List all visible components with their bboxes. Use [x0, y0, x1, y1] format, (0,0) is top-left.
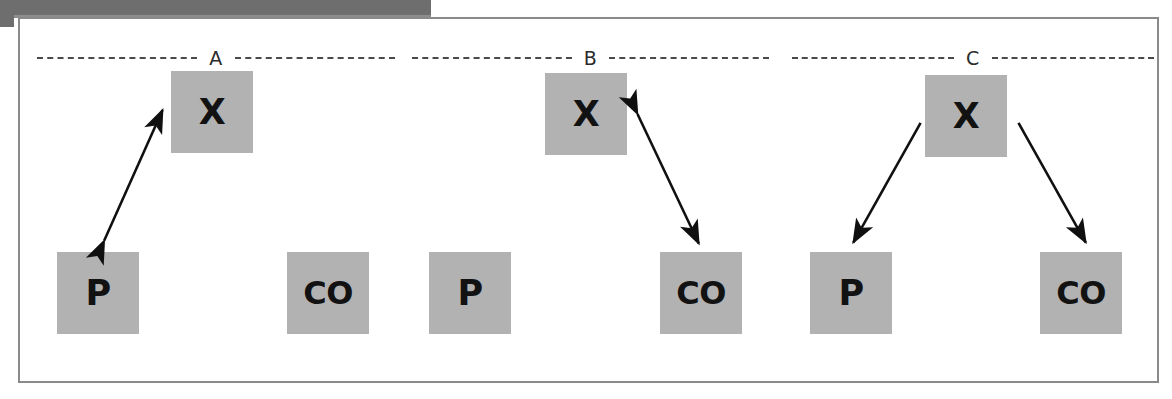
panel-a-label: A	[206, 49, 226, 68]
panel-b: B X P CO	[412, 19, 769, 381]
edge-c-x-co	[1018, 123, 1085, 243]
node-b-x: X	[545, 73, 627, 155]
panel-c-header: C	[792, 47, 1154, 69]
node-b-p-label: P	[457, 273, 482, 313]
edge-b-x-co	[637, 114, 698, 244]
node-b-co-label: CO	[676, 274, 726, 312]
scan-edge-left-artifact	[0, 0, 14, 27]
panel-c-dash-right	[992, 57, 1154, 59]
node-c-p: P	[810, 252, 892, 334]
panel-c: C X P CO	[792, 19, 1154, 381]
node-c-x: X	[925, 75, 1007, 157]
node-a-co: CO	[287, 252, 369, 334]
node-a-x-label: X	[199, 92, 226, 132]
panel-b-dash-left	[412, 57, 572, 59]
panel-a-dash-left	[37, 57, 197, 59]
panel-a-header: A	[37, 47, 395, 69]
node-c-co: CO	[1040, 252, 1122, 334]
panel-c-dash-left	[792, 57, 954, 59]
panel-b-label: B	[581, 49, 601, 68]
node-b-p: P	[429, 252, 511, 334]
edge-a-p-x	[104, 110, 162, 241]
node-c-co-label: CO	[1056, 274, 1106, 312]
node-c-x-label: X	[953, 96, 980, 136]
panel-a: A X P CO	[37, 19, 395, 381]
panel-b-dash-right	[609, 57, 769, 59]
figure-frame: A X P CO	[18, 17, 1159, 383]
panel-b-header: B	[412, 47, 769, 69]
figure-root: A X P CO	[0, 0, 1172, 399]
node-a-x: X	[171, 71, 253, 153]
node-b-co: CO	[660, 252, 742, 334]
panel-a-dash-right	[235, 57, 395, 59]
node-a-p: P	[57, 252, 139, 334]
node-a-co-label: CO	[303, 274, 353, 312]
edge-c-x-p	[853, 123, 920, 243]
scan-edge-top-artifact	[0, 0, 431, 15]
node-b-x-label: X	[573, 94, 600, 134]
panel-c-label: C	[963, 49, 983, 68]
node-a-p-label: P	[85, 273, 110, 313]
node-c-p-label: P	[838, 273, 863, 313]
